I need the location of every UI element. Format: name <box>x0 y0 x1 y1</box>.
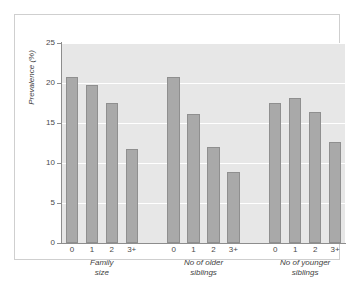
x-axis-category-label: 1 <box>184 246 204 254</box>
y-axis-tick-label: 15 <box>46 119 55 127</box>
gridline <box>62 43 345 44</box>
x-axis-category-label: 3+ <box>122 246 142 254</box>
x-axis-group-label: No of oldersiblings <box>159 258 249 278</box>
x-axis-category-label: 0 <box>62 246 82 254</box>
bar <box>269 103 281 243</box>
figure-card: 0510152025 Prevalence (%) 0123+0123+0123… <box>14 14 340 260</box>
bar <box>126 149 138 243</box>
x-axis-group-label: Familysize <box>57 258 147 278</box>
gridline <box>62 123 345 124</box>
gridline <box>62 163 345 164</box>
x-axis-group-label: No of youngersiblings <box>260 258 350 278</box>
x-axis-category-label: 0 <box>265 246 285 254</box>
bar <box>66 77 78 243</box>
y-axis-line <box>61 42 62 244</box>
x-axis-line <box>61 243 346 244</box>
y-axis-tick-mark <box>57 43 61 44</box>
gridline <box>62 83 345 84</box>
plot-area <box>62 43 345 243</box>
bar <box>187 114 199 243</box>
y-axis-title: Prevalence (%) <box>27 35 36 121</box>
x-axis-category-label: 2 <box>203 246 223 254</box>
x-axis-category-label: 1 <box>82 246 102 254</box>
y-axis-tick-mark <box>57 163 61 164</box>
gridline <box>62 203 345 204</box>
x-axis-category-label: 3+ <box>325 246 345 254</box>
y-axis-tick-mark <box>57 203 61 204</box>
bar <box>106 103 118 243</box>
x-axis-category-label: 1 <box>285 246 305 254</box>
bar <box>227 172 239 243</box>
bar <box>289 98 301 243</box>
y-axis-tick-label: 0 <box>51 239 55 247</box>
x-axis-category-label: 3+ <box>223 246 243 254</box>
x-axis-category-label: 0 <box>164 246 184 254</box>
y-axis-tick-label: 20 <box>46 79 55 87</box>
bar <box>207 147 219 243</box>
y-axis-tick-label: 5 <box>51 199 55 207</box>
y-axis-tick-label: 10 <box>46 159 55 167</box>
bar <box>167 77 179 243</box>
bar <box>86 85 98 243</box>
y-axis-tick-mark <box>57 123 61 124</box>
x-axis-category-label: 2 <box>102 246 122 254</box>
y-axis-tick-label: 25 <box>46 39 55 47</box>
y-axis-tick-mark <box>57 83 61 84</box>
x-axis-category-label: 2 <box>305 246 325 254</box>
bar <box>329 142 341 243</box>
bar <box>309 112 321 243</box>
y-axis-tick-mark <box>57 243 61 244</box>
